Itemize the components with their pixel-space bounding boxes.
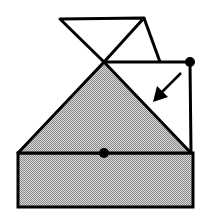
- fold-arrow-icon: [153, 73, 181, 102]
- shaded-triangle: [18, 62, 191, 153]
- top-flap: [60, 18, 160, 62]
- hinge-dot-center: [99, 148, 109, 158]
- flap-side-edge: [144, 18, 160, 62]
- base-rectangle: [18, 153, 193, 207]
- folding-diagram: [0, 0, 206, 219]
- bowtie-triangle: [60, 18, 144, 62]
- hinge-dot-top-right: [185, 57, 195, 67]
